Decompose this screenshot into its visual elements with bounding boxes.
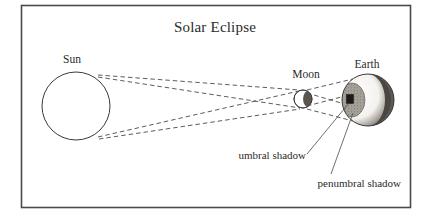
moon-label: Moon [292,68,320,80]
diagram-canvas: Solar Eclipse Sun Moon [0,0,430,219]
sun-body [42,72,110,140]
earth-label: Earth [355,58,380,70]
sun-label: Sun [63,53,81,65]
sun-disc [42,72,110,140]
solar-eclipse-figure: Solar Eclipse Sun Moon [0,0,430,219]
penumbral-shadow-label: penumbral shadow [318,177,401,189]
figure-title: Solar Eclipse [174,19,256,35]
umbral-shadow-patch [347,95,354,104]
umbral-shadow-label: umbral shadow [238,149,306,161]
